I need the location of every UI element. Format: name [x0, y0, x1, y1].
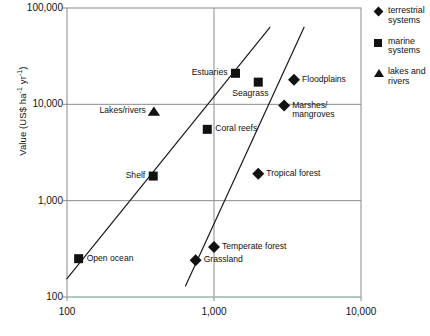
data-point-label: Temperate forest	[222, 242, 286, 252]
legend-item-diamond[interactable]: terrestrialsystems	[374, 6, 430, 26]
data-point-marker	[252, 168, 264, 180]
data-point-label: Open ocean	[87, 254, 134, 264]
data-point-label: Estuaries	[0, 68, 227, 78]
data-point-marker	[288, 74, 300, 86]
data-point-marker	[74, 254, 83, 263]
legend-label-line2: systems	[388, 46, 430, 56]
data-point-label: Grassland	[204, 255, 243, 265]
data-point-marker	[149, 172, 158, 181]
legend-item-triangle[interactable]: lakes andrivers	[374, 67, 430, 87]
chart-figure: Value (US$ ha-1 yr-1) 100,00010,0001,000…	[0, 0, 430, 336]
plot-area	[0, 0, 430, 336]
data-point-marker	[203, 125, 212, 134]
chart-legend: terrestrialsystemsmarinesystemslakes and…	[374, 6, 430, 98]
data-point-label: Tropical forest	[266, 169, 320, 179]
data-point-label: Marshes/mangroves	[292, 101, 335, 120]
data-point-label-line2: mangroves	[292, 110, 335, 120]
data-point-label: Shelf	[0, 171, 145, 181]
data-point-marker	[208, 241, 220, 253]
data-point-marker	[278, 100, 290, 112]
data-point-label: Seagrass	[232, 89, 268, 99]
data-point-label: Coral reefs	[215, 124, 257, 134]
legend-item-square[interactable]: marinesystems	[374, 37, 430, 57]
data-point-label: Lakes/rivers	[0, 106, 146, 116]
data-point-marker	[148, 106, 160, 115]
data-point-marker	[254, 78, 263, 87]
diamond-icon	[374, 7, 384, 17]
data-point-label: Floodplains	[302, 75, 346, 85]
legend-label-line2: rivers	[388, 77, 430, 87]
triangle-icon	[374, 69, 384, 77]
data-point-marker	[231, 69, 240, 78]
square-icon	[374, 39, 382, 47]
legend-label-line2: systems	[388, 16, 430, 26]
